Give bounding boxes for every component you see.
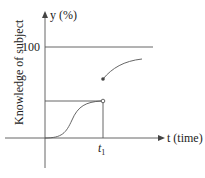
y-axis-arrowhead-icon bbox=[42, 11, 48, 18]
y-axis-label: y (%) bbox=[50, 8, 77, 23]
x-axis-label: t (time) bbox=[167, 131, 203, 146]
post-jump-curve bbox=[103, 59, 142, 79]
side-label: Knowledge of subject bbox=[12, 20, 27, 125]
filled-dot-marker bbox=[101, 77, 105, 81]
t1-label-subscript: 1 bbox=[101, 148, 105, 157]
t1-label: t1 bbox=[98, 141, 105, 157]
open-circle-marker bbox=[101, 99, 105, 103]
x-axis-arrowhead-icon bbox=[158, 135, 165, 141]
sigmoid-curve bbox=[45, 101, 101, 138]
